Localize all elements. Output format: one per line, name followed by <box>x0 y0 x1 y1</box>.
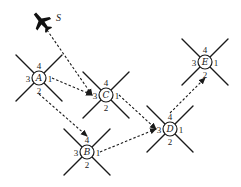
port-label-2: 2 <box>168 137 173 147</box>
start-point: S <box>28 8 61 36</box>
port-label-1: 1 <box>115 91 120 101</box>
port-label-2: 2 <box>104 103 109 113</box>
port-label-4: 4 <box>85 135 90 145</box>
port-label-3: 3 <box>192 58 197 68</box>
port-label-3: 3 <box>157 125 162 135</box>
airplane-icon <box>28 8 56 36</box>
node-label: E <box>201 57 209 67</box>
port-label-3: 3 <box>74 148 79 158</box>
port-label-4: 4 <box>203 45 208 55</box>
port-label-3: 3 <box>93 91 98 101</box>
start-label: S <box>56 12 61 23</box>
port-label-4: 4 <box>168 112 173 122</box>
intersection-a: A1234 <box>16 55 62 101</box>
port-label-1: 1 <box>179 125 184 135</box>
intersection-d: D1234 <box>147 106 193 152</box>
node-label: A <box>35 73 43 83</box>
port-label-1: 1 <box>96 148 101 158</box>
route-a-to-b <box>39 94 87 136</box>
port-label-1: 1 <box>214 58 219 68</box>
route-b-to-d <box>100 129 156 152</box>
node-label: C <box>103 90 110 100</box>
intersection-e: E1234 <box>182 39 228 85</box>
intersection-b: B1234 <box>64 129 110 175</box>
node-label: D <box>165 124 173 134</box>
route-c-to-d <box>119 95 156 129</box>
intersection-c: C1234 <box>83 72 129 118</box>
port-label-1: 1 <box>48 74 53 84</box>
nodes: A1234B1234C1234D1234E1234 <box>16 39 228 175</box>
network-diagram: A1234B1234C1234D1234E1234 S <box>0 0 241 187</box>
port-label-2: 2 <box>37 86 42 96</box>
node-label: B <box>83 147 91 157</box>
port-label-2: 2 <box>203 70 208 80</box>
port-label-4: 4 <box>37 61 42 71</box>
port-label-2: 2 <box>85 160 90 170</box>
route-d-to-e <box>170 78 205 113</box>
port-label-4: 4 <box>104 78 109 88</box>
port-label-3: 3 <box>26 74 31 84</box>
